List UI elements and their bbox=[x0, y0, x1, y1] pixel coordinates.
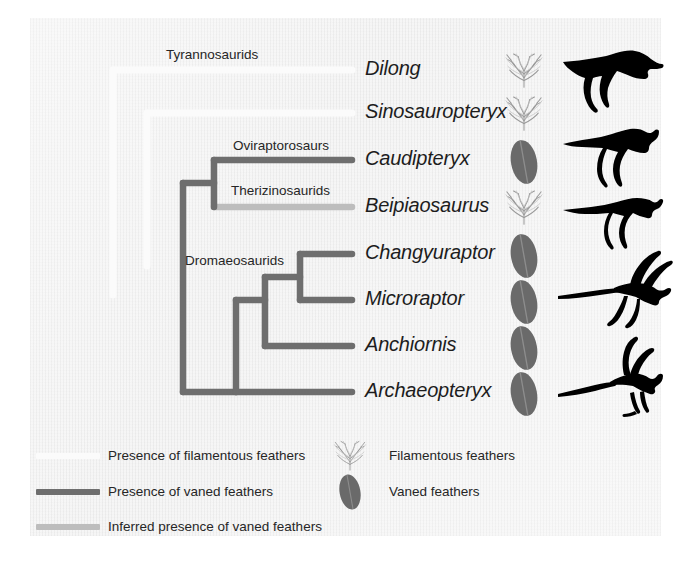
silhouette-microraptor bbox=[558, 251, 673, 328]
taxon-label-dilong: Dilong bbox=[365, 57, 421, 80]
silhouette-archaeopteryx bbox=[558, 337, 663, 417]
clade-label-therizinosaurids: Therizinosaurids bbox=[231, 183, 330, 198]
legend-label-inferred-vaned: Inferred presence of vaned feathers bbox=[108, 519, 322, 534]
vaned-feather-icon bbox=[337, 473, 364, 511]
legend-label-filamentous-feathers: Filamentous feathers bbox=[389, 448, 515, 463]
cladogram-branches bbox=[0, 0, 689, 569]
silhouette-column bbox=[558, 51, 673, 417]
legend-swatch-filamentous bbox=[36, 453, 100, 459]
legend-label-vaned: Presence of vaned feathers bbox=[108, 484, 273, 499]
filamentous-feather-icon bbox=[506, 54, 542, 87]
silhouette-oviraptorosaur bbox=[563, 129, 659, 188]
legend-swatch-inferred-vaned bbox=[36, 524, 100, 530]
feather-icon-column bbox=[506, 54, 542, 418]
silhouette-tyrannosauroid bbox=[563, 51, 664, 113]
legend-label-filamentous: Presence of filamentous feathers bbox=[108, 448, 305, 463]
taxon-label-archaeopteryx: Archaeopteryx bbox=[365, 379, 491, 402]
vaned-feather-icon bbox=[507, 138, 540, 186]
taxon-label-changyuraptor: Changyuraptor bbox=[365, 241, 495, 264]
taxon-label-microraptor: Microraptor bbox=[365, 287, 464, 310]
clade-label-dromaeosaurids: Dromaeosaurids bbox=[185, 253, 284, 268]
legend-icon-group bbox=[334, 441, 365, 511]
vaned-feather-icon bbox=[507, 324, 540, 372]
taxon-label-anchiornis: Anchiornis bbox=[365, 333, 456, 356]
vaned-feather-icon bbox=[507, 370, 540, 418]
silhouette-therizinosaur bbox=[563, 198, 663, 249]
filamentous-feather-icon bbox=[334, 441, 365, 470]
clade-label-tyrannosaurids: Tyrannosaurids bbox=[166, 47, 258, 62]
filamentous-feather-icon bbox=[506, 191, 542, 224]
legend-swatch-vaned bbox=[36, 489, 100, 495]
filamentous-feather-icon bbox=[506, 97, 542, 130]
clade-label-oviraptorosaurs: Oviraptorosaurs bbox=[233, 138, 329, 153]
taxon-label-beipiaosaurus: Beipiaosaurus bbox=[365, 194, 489, 217]
cladogram-figure: Tyrannosaurids Oviraptorosaurs Therizino… bbox=[0, 0, 689, 569]
vaned-feather-icon bbox=[507, 232, 540, 280]
vaned-feather-icon bbox=[507, 278, 540, 326]
taxon-label-caudipteryx: Caudipteryx bbox=[365, 147, 470, 170]
taxon-label-sinosauropteryx: Sinosauropteryx bbox=[365, 100, 507, 123]
legend-label-vaned-feathers: Vaned feathers bbox=[389, 484, 480, 499]
